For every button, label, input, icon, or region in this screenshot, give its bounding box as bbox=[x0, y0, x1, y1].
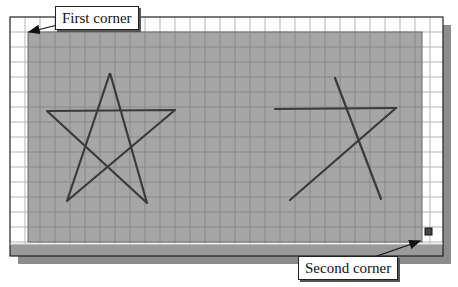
partial-star-line bbox=[275, 108, 396, 109]
diagram-canvas: First corner Second corner bbox=[0, 0, 458, 287]
second-corner-label: Second corner bbox=[305, 260, 391, 276]
drawing-area bbox=[0, 0, 458, 287]
second-corner-callout: Second corner bbox=[298, 256, 398, 280]
bottom-band bbox=[10, 244, 443, 256]
cursor-box-icon bbox=[425, 228, 432, 235]
first-corner-callout: First corner bbox=[55, 6, 139, 30]
first-corner-label: First corner bbox=[62, 10, 132, 26]
